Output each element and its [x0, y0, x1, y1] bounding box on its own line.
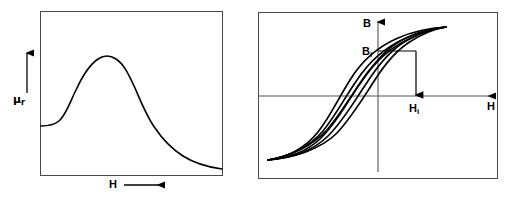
figure-root: μr H B H Bi Hi — [0, 0, 510, 199]
hysteresis-y-axis-label: B — [363, 18, 371, 29]
permeability-x-axis-label: H — [109, 179, 117, 190]
hi-marker-label: Hi — [409, 103, 419, 114]
hysteresis-x-axis-label: H — [487, 101, 495, 112]
permeability-panel-frame — [40, 11, 223, 176]
hysteresis-panel-frame — [258, 12, 498, 179]
bi-marker-label: Bi — [362, 46, 372, 57]
permeability-y-axis-label: μr — [13, 94, 25, 105]
